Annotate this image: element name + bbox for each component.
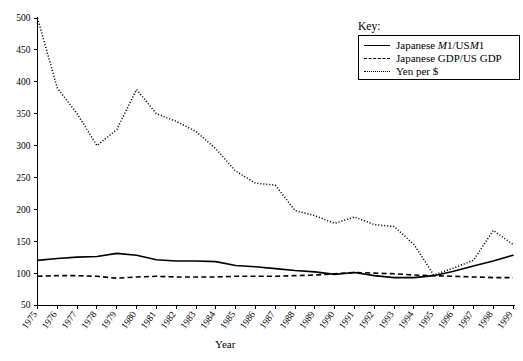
series-line-solid [38,253,514,277]
legend-item-yen-per-dollar: Yen per $ [363,64,515,77]
x-tick-label: 1983 [179,309,198,331]
x-tick-label: 1981 [139,309,158,331]
x-tick-label: 1977 [60,309,79,331]
y-tick-label: 350 [16,109,31,119]
legend-label-japanese-m1-us-m1: Japanese M1/USM1 [396,39,484,51]
y-tick-label: 50 [21,300,31,310]
chart-figure: 5010015020025030035040045050019751976197… [0,0,523,361]
x-tick-label: 1982 [159,309,178,331]
x-tick-label: 1995 [416,309,435,331]
legend-label-yen-per-dollar: Yen per $ [396,65,438,77]
x-tick-label: 1975 [20,309,39,331]
x-tick-label: 1985 [218,309,237,331]
y-tick-label: 450 [16,45,31,55]
legend-label-japanese-gdp-us-gdp: Japanese GDP/US GDP [396,52,502,64]
x-tick-label: 1989 [297,309,316,331]
x-tick-label: 1980 [119,309,138,331]
y-tick-label: 250 [16,173,31,183]
x-tick-label: 1994 [396,309,415,331]
legend-swatch-dotted-icon [363,65,391,77]
x-tick-label: 1988 [278,309,297,331]
x-tick-label: 1993 [377,309,396,331]
x-tick-label: 1976 [40,309,59,331]
legend-item-japanese-m1-us-m1: Japanese M1/USM1 [363,38,515,51]
y-tick-label: 400 [16,77,31,87]
x-tick-label: 1999 [496,309,515,331]
x-tick-label: 1996 [436,309,455,331]
chart-legend: Key: Japanese M1/USM1 Japanese GDP/US GD… [358,20,520,80]
x-tick-label: 1979 [99,309,118,331]
x-tick-label: 1998 [476,309,495,331]
x-tick-label: 1990 [317,309,336,331]
legend-swatch-solid-icon [363,39,391,51]
y-tick-label: 500 [16,13,31,23]
x-tick-label: 1986 [238,309,257,331]
y-tick-label: 100 [16,269,31,279]
y-tick-label: 300 [16,141,31,151]
x-tick-label: 1978 [79,309,98,331]
x-tick-label: 1992 [357,309,376,331]
x-tick-label: 1987 [258,309,277,331]
legend-swatch-dashed-icon [363,52,391,64]
x-tick-label: 1991 [337,309,356,331]
legend-item-japanese-gdp-us-gdp: Japanese GDP/US GDP [363,51,515,64]
y-tick-label: 200 [16,205,31,215]
legend-title: Key: [358,20,520,33]
x-axis-title: Year [215,338,236,350]
legend-box: Japanese M1/USM1 Japanese GDP/US GDP Yen… [358,35,520,80]
x-tick-label: 1984 [198,309,217,331]
y-tick-label: 150 [16,237,31,247]
x-tick-label: 1997 [456,309,475,331]
